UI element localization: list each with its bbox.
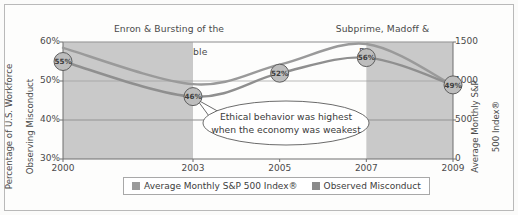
callout-bubble: Ethical behavior was highestwhen the eco… xyxy=(197,100,369,145)
legend-swatch-sp500 xyxy=(132,182,140,190)
legend-item-misconduct: Observed Misconduct xyxy=(312,181,421,191)
recession-band-0 xyxy=(63,42,193,159)
marker-label-2000: 55% xyxy=(54,57,71,66)
callout-line2: when the economy was weakest xyxy=(211,124,361,135)
legend-swatch-misconduct xyxy=(312,182,320,190)
chart-figure: Enron & Bursting of the Dot-Com Bubble S… xyxy=(0,0,518,215)
chart-legend: Average Monthly S&P 500 Index® Observed … xyxy=(123,177,430,195)
marker-label-2005: 52% xyxy=(271,69,288,78)
marker-label-2007: 56% xyxy=(358,53,375,62)
callout-ellipse xyxy=(203,101,369,145)
legend-label-misconduct: Observed Misconduct xyxy=(324,181,421,191)
legend-label-sp500: Average Monthly S&P 500 Index® xyxy=(144,181,298,191)
legend-item-sp500: Average Monthly S&P 500 Index® xyxy=(132,181,298,191)
marker-label-2003: 46% xyxy=(184,92,201,101)
callout-line1: Ethical behavior was highest xyxy=(220,111,353,122)
marker-label-2009: 49% xyxy=(444,81,461,90)
